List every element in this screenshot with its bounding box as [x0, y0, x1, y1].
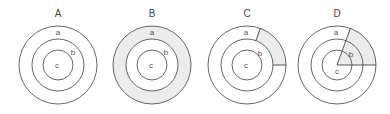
region-label-c: c: [244, 62, 248, 70]
shaded-pie-sector: [337, 28, 376, 65]
region-label-a: a: [150, 29, 154, 37]
region-label-a: a: [244, 29, 248, 37]
region-label-a: a: [56, 29, 60, 37]
panel-d: [298, 26, 376, 104]
region-label-b: b: [164, 49, 168, 57]
region-label-b: b: [71, 49, 75, 57]
region-label-c: c: [149, 62, 153, 70]
concentric-circles-diagram: A B C D a b c a b c a b c a b c: [0, 0, 390, 114]
region-label-b: b: [349, 51, 353, 59]
region-label-b: b: [258, 50, 262, 58]
region-label-a: a: [334, 29, 338, 37]
region-label-c: c: [55, 62, 59, 70]
region-label-c: c: [335, 68, 339, 76]
panel-title-b: B: [149, 9, 156, 19]
panel-title-a: A: [55, 9, 62, 19]
panel-title-c: C: [243, 9, 250, 19]
panel-title-d: D: [333, 9, 340, 19]
